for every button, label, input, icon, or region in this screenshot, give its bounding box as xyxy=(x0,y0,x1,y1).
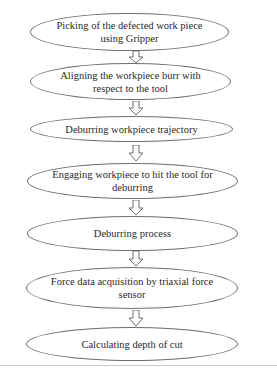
step-label: Aligning the workpiece burr with respect… xyxy=(49,69,212,95)
step-4-engaging: Engaging workpiece to hit the tool for d… xyxy=(27,163,238,199)
step-label: Force data acquisition by triaxial force… xyxy=(45,275,219,301)
hollow-down-arrow-icon xyxy=(128,145,144,161)
step-label: Deburring process xyxy=(94,227,171,240)
step-2-aligning: Aligning the workpiece burr with respect… xyxy=(30,63,231,100)
hollow-down-arrow-icon xyxy=(128,310,144,326)
hollow-down-arrow-icon xyxy=(128,251,144,266)
hollow-down-arrow-icon xyxy=(128,51,144,63)
step-1-picking: Picking of the defected work piece using… xyxy=(30,13,229,51)
divider xyxy=(0,365,277,366)
hollow-down-arrow-icon xyxy=(128,200,144,215)
step-5-deburring-process: Deburring process xyxy=(27,216,238,251)
step-label: Deburring workpiece trajectory xyxy=(65,123,197,136)
step-3-trajectory: Deburring workpiece trajectory xyxy=(30,116,233,142)
step-7-depth-of-cut: Calculating depth of cut xyxy=(26,327,238,361)
step-6-force-acquisition: Force data acquisition by triaxial force… xyxy=(26,267,238,309)
step-label: Calculating depth of cut xyxy=(81,338,182,351)
step-label: Engaging workpiece to hit the tool for d… xyxy=(46,168,219,194)
hollow-down-arrow-icon xyxy=(128,101,144,115)
step-label: Picking of the defected work piece using… xyxy=(49,19,210,45)
